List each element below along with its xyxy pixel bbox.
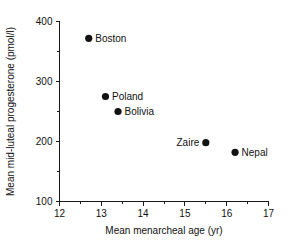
data-point-label-poland: Poland — [112, 91, 143, 102]
x-tick-label: 12 — [54, 208, 66, 219]
y-tick-label: 100 — [36, 196, 53, 207]
data-point-label-boston: Boston — [95, 33, 126, 44]
x-tick-label: 17 — [263, 208, 275, 219]
data-point-poland — [102, 93, 109, 100]
plot-area: 100200300400121314151617Mean menarcheal … — [0, 0, 294, 248]
data-point-zaire — [202, 139, 209, 146]
data-point-label-zaire: Zaire — [177, 137, 200, 148]
data-point-label-nepal: Nepal — [242, 147, 268, 158]
data-point-nepal — [231, 149, 238, 156]
data-point-label-bolivia: Bolivia — [125, 106, 155, 117]
scatter-chart-figure: 100200300400121314151617Mean menarcheal … — [0, 0, 294, 248]
y-tick-label: 300 — [36, 76, 53, 87]
y-tick-label: 200 — [36, 136, 53, 147]
x-tick-label: 16 — [221, 208, 233, 219]
x-tick-label: 15 — [179, 208, 191, 219]
y-tick-label: 400 — [36, 16, 53, 27]
data-point-boston — [85, 35, 92, 42]
data-point-bolivia — [114, 108, 121, 115]
x-tick-label: 14 — [138, 208, 150, 219]
x-axis-title: Mean menarcheal age (yr) — [105, 225, 222, 236]
y-axis-title: Mean mid-luteal progesterone (pmol/l) — [5, 27, 16, 196]
x-tick-label: 13 — [96, 208, 108, 219]
